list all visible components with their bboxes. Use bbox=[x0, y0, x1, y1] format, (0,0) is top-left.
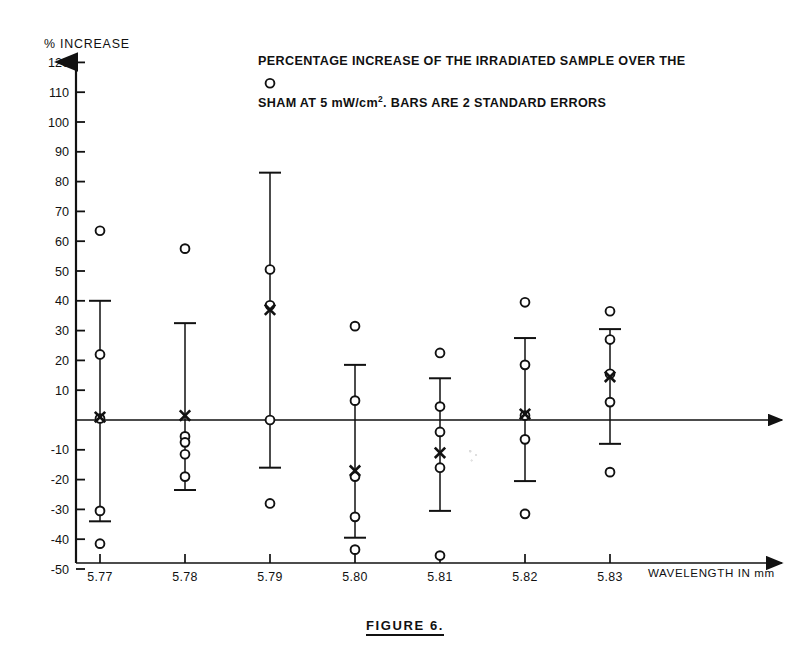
figure-caption-text: FIGURE 6. bbox=[366, 618, 444, 636]
data-point-marker bbox=[521, 435, 530, 444]
data-point-marker bbox=[181, 244, 190, 253]
data-point-marker bbox=[181, 450, 190, 459]
data-groups bbox=[89, 79, 621, 560]
data-point-marker bbox=[266, 265, 275, 274]
y-tick-label: 10 bbox=[55, 384, 69, 398]
data-point-marker bbox=[96, 226, 105, 235]
y-axis: 120110100908070605040302010-10-20-30-40-… bbox=[48, 56, 85, 577]
data-point-marker bbox=[351, 322, 360, 331]
scan-artifact bbox=[466, 448, 480, 464]
x-tick-label: 5.77 bbox=[87, 570, 113, 584]
y-tick-label: 120 bbox=[48, 56, 69, 70]
x-tick-label: 5.81 bbox=[427, 570, 453, 584]
data-point-marker bbox=[96, 539, 105, 548]
x-tick-label: 5.83 bbox=[597, 570, 623, 584]
x-tick-label: 5.80 bbox=[342, 570, 368, 584]
data-group bbox=[174, 244, 196, 490]
data-point-marker bbox=[606, 307, 615, 316]
data-point-marker bbox=[266, 499, 275, 508]
data-point-marker bbox=[266, 79, 275, 88]
y-tick-label: 80 bbox=[55, 175, 69, 189]
data-group bbox=[89, 226, 111, 548]
data-group bbox=[514, 298, 536, 518]
x-tick-label: 5.78 bbox=[172, 570, 198, 584]
y-tick-label: 100 bbox=[48, 116, 69, 130]
data-point-marker bbox=[521, 298, 530, 307]
figure-container: PERCENTAGE INCREASE OF THE IRRADIATED SA… bbox=[0, 0, 810, 669]
data-point-marker bbox=[606, 468, 615, 477]
data-point-marker bbox=[351, 512, 360, 521]
y-tick-label: -30 bbox=[51, 503, 69, 517]
y-tick-label: -10 bbox=[51, 443, 69, 457]
data-point-marker bbox=[351, 396, 360, 405]
y-tick-label: 30 bbox=[55, 324, 69, 338]
x-tick-label: 5.82 bbox=[512, 570, 538, 584]
data-point-marker bbox=[96, 506, 105, 515]
data-group bbox=[599, 307, 621, 477]
scatter-plot: 120110100908070605040302010-10-20-30-40-… bbox=[0, 0, 810, 669]
data-point-marker bbox=[521, 360, 530, 369]
data-point-marker bbox=[606, 335, 615, 344]
data-point-marker bbox=[436, 463, 445, 472]
data-point-marker bbox=[351, 545, 360, 554]
y-tick-label: -40 bbox=[51, 533, 69, 547]
y-tick-label: 40 bbox=[55, 294, 69, 308]
y-tick-label: -50 bbox=[51, 563, 69, 577]
data-group bbox=[429, 349, 451, 560]
data-group bbox=[259, 79, 281, 508]
x-tick-label: 5.79 bbox=[257, 570, 283, 584]
y-tick-label: 50 bbox=[55, 265, 69, 279]
y-tick-label: 90 bbox=[55, 145, 69, 159]
data-group bbox=[344, 322, 366, 554]
data-point-marker bbox=[521, 509, 530, 518]
data-point-marker bbox=[436, 428, 445, 437]
x-axis: 5.775.785.795.805.815.825.83 bbox=[76, 554, 782, 584]
data-point-marker bbox=[181, 472, 190, 481]
data-point-marker bbox=[266, 416, 275, 425]
data-point-marker bbox=[436, 551, 445, 560]
data-point-marker bbox=[181, 438, 190, 447]
y-tick-label: 70 bbox=[55, 205, 69, 219]
data-point-marker bbox=[436, 402, 445, 411]
y-tick-label: 60 bbox=[55, 235, 69, 249]
data-point-marker bbox=[606, 398, 615, 407]
data-point-marker bbox=[96, 350, 105, 359]
y-tick-label: 110 bbox=[49, 86, 69, 100]
figure-caption: FIGURE 6. bbox=[0, 618, 810, 633]
y-tick-label: 20 bbox=[55, 354, 69, 368]
y-tick-label: -20 bbox=[51, 473, 69, 487]
data-point-marker bbox=[436, 349, 445, 358]
